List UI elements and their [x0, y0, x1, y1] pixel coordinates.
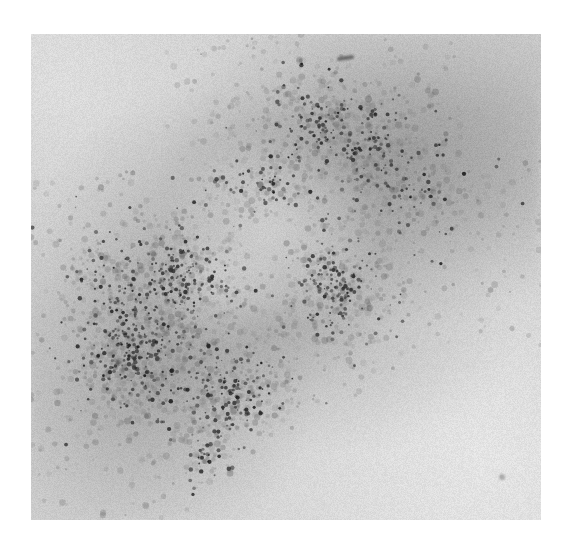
film-grain-noise [31, 34, 541, 520]
paper-fiber-highlights [31, 34, 541, 520]
interior-clearing [31, 34, 541, 520]
panel-base-tone [31, 34, 541, 520]
silver-grain-dot-field [31, 34, 541, 520]
scan-vignette [31, 34, 541, 520]
page-canvas [0, 0, 572, 554]
top-scan-mark-artifact [337, 55, 354, 61]
lower-right-speck-artifact [499, 474, 505, 480]
cell-body-haze [31, 34, 541, 520]
micrograph-panel [31, 34, 541, 520]
